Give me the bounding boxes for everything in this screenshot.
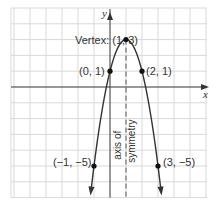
data-point bbox=[155, 163, 160, 168]
point-label-0-1: (0, 1) bbox=[79, 65, 105, 77]
parabola-chart: x y axis of symmetry Vertex: (1, 3) (0, … bbox=[0, 0, 216, 205]
axis-of-symmetry-text-1: axis of bbox=[112, 131, 123, 160]
y-axis-label: y bbox=[101, 7, 107, 19]
axis-of-symmetry-text-2: symmetry bbox=[126, 119, 137, 162]
point-label-neg1-neg5: (−1, −5) bbox=[53, 156, 92, 168]
x-axis-label: x bbox=[202, 88, 208, 100]
data-point bbox=[91, 163, 96, 168]
point-label-2-1: (2, 1) bbox=[146, 65, 172, 77]
axis-of-symmetry-label: axis of symmetry bbox=[112, 119, 137, 162]
vertex-label: Vertex: (1, 3) bbox=[75, 34, 138, 46]
y-axis-arrow-icon bbox=[107, 12, 113, 20]
point-label-3-neg5: (3, −5) bbox=[163, 156, 195, 168]
data-point bbox=[107, 69, 112, 74]
data-point bbox=[139, 69, 144, 74]
